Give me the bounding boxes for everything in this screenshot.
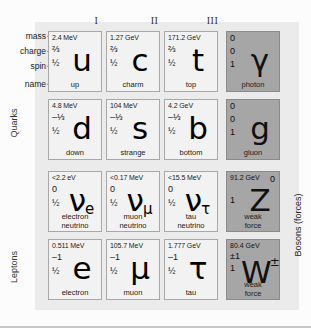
particle-cell-strange[interactable]: 104 MeV–⅓½sstrange xyxy=(106,99,160,160)
particle-name: tauneutrino xyxy=(165,212,217,230)
column-header-2: II xyxy=(126,15,183,26)
particle-name: weakforce xyxy=(227,280,279,298)
particle-name: bottom xyxy=(165,148,217,157)
particle-name: electron xyxy=(49,288,101,297)
particle-cell-muon[interactable]: 105.7 MeV–1½μmuon xyxy=(106,239,160,300)
particle-mass: 104 MeV xyxy=(110,102,137,109)
particle-symbol: b xyxy=(165,110,217,146)
particle-name-line2: neutrino xyxy=(165,221,217,230)
particle-cell-weak-force[interactable]: 91.2 GeV01Zweakforce xyxy=(226,171,280,232)
particle-name: photon xyxy=(227,80,279,89)
particle-name: down xyxy=(49,148,101,157)
particle-cell-gluon[interactable]: 001ggluon xyxy=(226,99,280,160)
particle-name: tau xyxy=(165,288,217,297)
particle-symbol: u xyxy=(49,42,101,78)
particle-name: up xyxy=(49,80,101,89)
particle-cell-down[interactable]: 4.8 MeV–⅓½ddown xyxy=(48,99,102,160)
particle-name-line2: force xyxy=(227,289,279,298)
standard-model-chart: I II III mass➞ charge➞ spin➞ name➞ Quark… xyxy=(0,0,311,328)
group-label-bosons: Bosons (forces) xyxy=(293,183,303,267)
particle-mass: <2.2 eV xyxy=(52,174,76,181)
particle-mass: 2.4 MeV xyxy=(52,34,77,41)
particle-mass: 4.2 GeV xyxy=(168,102,193,109)
particle-cell-charm[interactable]: 1.27 GeV⅔½ccharm xyxy=(106,31,160,92)
particle-name: muonneutrino xyxy=(107,212,159,230)
label-name-text: name xyxy=(25,79,46,89)
particle-cell-bottom[interactable]: 4.2 GeV–⅓½bbottom xyxy=(164,99,218,160)
label-charge-text: charge xyxy=(20,46,46,56)
particle-cell-muon-neutrino[interactable]: <0.17 MeV0½νμmuonneutrino xyxy=(106,171,160,232)
particle-name-line2: neutrino xyxy=(49,221,101,230)
particle-name: weakforce xyxy=(227,212,279,230)
particle-symbol: e xyxy=(49,250,101,286)
particle-cell-electron[interactable]: 0.511 MeV–1½eelectron xyxy=(48,239,102,300)
column-header-1: I xyxy=(68,15,125,26)
group-label-quarks: Quarks xyxy=(9,100,19,146)
particle-symbol-superscript: ± xyxy=(270,255,280,269)
particle-mass: 80.4 GeV xyxy=(230,242,260,249)
particle-symbol: s xyxy=(107,110,159,146)
particle-symbol: d xyxy=(49,110,101,146)
particle-mass: 91.2 GeV xyxy=(230,174,260,181)
particle-cell-photon[interactable]: 001γphoton xyxy=(226,31,280,92)
particle-symbol: γ xyxy=(227,42,279,78)
particle-symbol: g xyxy=(227,110,279,146)
label-spin-text: spin xyxy=(30,61,46,71)
label-mass-text: mass xyxy=(26,31,46,41)
particle-cell-electron-neutrino[interactable]: <2.2 eV0½νeelectronneutrino xyxy=(48,171,102,232)
particle-name: top xyxy=(165,80,217,89)
particle-name-line2: neutrino xyxy=(107,221,159,230)
column-headers: I II III xyxy=(48,15,282,29)
particle-symbol: t xyxy=(165,42,217,78)
particle-symbol: μ xyxy=(107,250,159,286)
particle-name: electronneutrino xyxy=(49,212,101,230)
particle-symbol: c xyxy=(107,42,159,78)
particle-mass: <15.5 MeV xyxy=(168,174,201,181)
particle-cell-tau[interactable]: 1.777 GeV–1½τtau xyxy=(164,239,218,300)
particle-grid: 2.4 MeV⅔½uup1.27 GeV⅔½ccharm171.2 GeV⅔½t… xyxy=(48,31,286,303)
particle-cell-weak-force[interactable]: 80.4 GeV±11W±weakforce xyxy=(226,239,280,300)
particle-symbol: τ xyxy=(165,250,217,286)
particle-name: charm xyxy=(107,80,159,89)
particle-name: muon xyxy=(107,288,159,297)
particle-mass: 1.27 GeV xyxy=(110,34,139,41)
column-header-3: III xyxy=(184,15,241,26)
particle-name-line2: force xyxy=(227,221,279,230)
particle-name: strange xyxy=(107,148,159,157)
particle-mass: 105.7 MeV xyxy=(110,242,143,249)
particle-mass: <0.17 MeV xyxy=(110,174,143,181)
particle-mass: 171.2 GeV xyxy=(168,34,201,41)
particle-mass: 1.777 GeV xyxy=(168,242,201,249)
group-label-leptons: Leptons xyxy=(9,244,19,290)
particle-cell-up[interactable]: 2.4 MeV⅔½uup xyxy=(48,31,102,92)
particle-cell-tau-neutrino[interactable]: <15.5 MeV0½ντtauneutrino xyxy=(164,171,218,232)
particle-cell-top[interactable]: 171.2 GeV⅔½ttop xyxy=(164,31,218,92)
particle-mass: 4.8 MeV xyxy=(52,102,77,109)
particle-mass: 0.511 MeV xyxy=(52,242,84,249)
particle-name: gluon xyxy=(227,148,279,157)
